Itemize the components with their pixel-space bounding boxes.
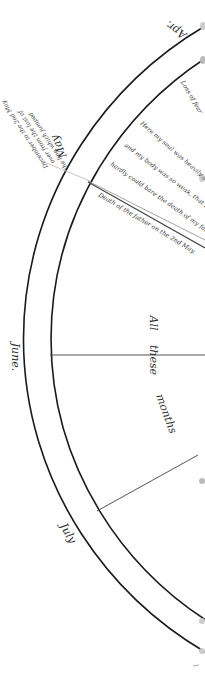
edge-mark	[200, 56, 205, 64]
month-label-july: July	[56, 519, 79, 546]
note-loss-of-fear: Loss of fear	[179, 78, 205, 116]
edge-mark	[199, 478, 205, 484]
span-word-all: All	[147, 315, 160, 331]
july-divider-line	[97, 455, 198, 511]
edge-mark	[199, 618, 205, 624]
span-word-months: months	[153, 392, 179, 436]
edge-tick	[193, 665, 199, 666]
year-wheel-diagram: Apr. May June. July the line which jumpe…	[0, 0, 205, 686]
edge-mark	[199, 648, 205, 654]
note-death-of-father: Death of the father on the 2nd May.	[96, 190, 197, 255]
month-label-june: June.	[9, 341, 22, 372]
span-word-these: these	[147, 345, 160, 376]
